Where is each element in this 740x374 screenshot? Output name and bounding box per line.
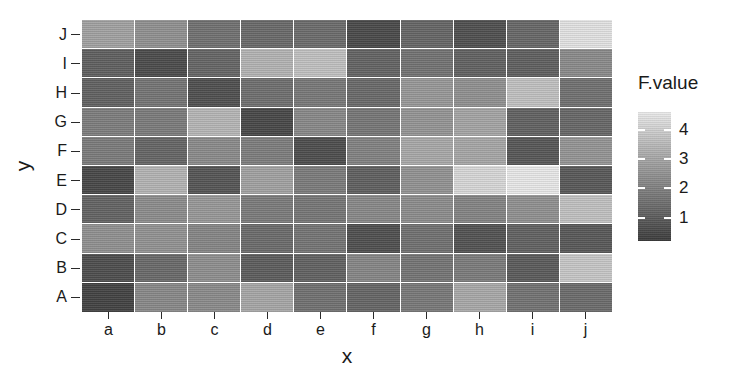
heatmap-cell-iA	[507, 283, 560, 312]
legend-colorbar	[638, 112, 671, 241]
legend-gradient	[638, 112, 671, 241]
heatmap-cell-cJ	[188, 20, 241, 49]
heatmap-cell-eE	[294, 166, 347, 195]
y-tick-mark	[71, 209, 80, 210]
y-tick-label: B	[56, 259, 67, 277]
heatmap-cell-gE	[401, 166, 454, 195]
heatmap-cell-gH	[401, 78, 454, 107]
heatmap-cell-aH	[82, 78, 135, 107]
heatmap-cell-aC	[82, 224, 135, 253]
heatmap-cell-bI	[135, 49, 188, 78]
heatmap-cell-bF	[135, 137, 188, 166]
heatmap-cell-hH	[454, 78, 507, 107]
y-tick-label: J	[59, 26, 67, 44]
heatmap-cell-bB	[135, 254, 188, 283]
heatmap-cell-fB	[347, 254, 400, 283]
x-tick-mark	[214, 312, 215, 319]
x-tick-d: d	[241, 312, 294, 342]
heatmap-cell-iI	[507, 49, 560, 78]
y-tick-mark	[71, 297, 80, 298]
heatmap-cell-dI	[241, 49, 294, 78]
heatmap-cell-dC	[241, 224, 294, 253]
heatmap-cell-dG	[241, 108, 294, 137]
heatmap-cell-jC	[560, 224, 612, 253]
y-tick-C: C	[40, 224, 82, 253]
y-tick-label: H	[55, 84, 67, 102]
heatmap-cell-aA	[82, 283, 135, 312]
heatmap-cell-eH	[294, 78, 347, 107]
heatmap-cell-cB	[188, 254, 241, 283]
x-tick-mark	[373, 312, 374, 319]
y-tick-label: I	[63, 55, 67, 73]
heatmap-cell-cD	[188, 195, 241, 224]
x-tick-mark	[320, 312, 321, 319]
heatmap-cell-hJ	[454, 20, 507, 49]
heatmap-cell-aF	[82, 137, 135, 166]
heatmap-cell-jF	[560, 137, 612, 166]
heatmap-cell-fF	[347, 137, 400, 166]
x-tick-g: g	[400, 312, 453, 342]
heatmap-cell-iJ	[507, 20, 560, 49]
x-tick-mark	[161, 312, 162, 319]
heatmap-cell-cI	[188, 49, 241, 78]
heatmap-cell-fH	[347, 78, 400, 107]
x-axis-title: x	[82, 344, 612, 368]
x-tick-f: f	[347, 312, 400, 342]
heatmap-cell-jG	[560, 108, 612, 137]
y-tick-label: G	[55, 113, 67, 131]
legend-tick-label-2: 2	[679, 178, 688, 198]
x-tick-i: i	[506, 312, 559, 342]
heatmap-cell-aG	[82, 108, 135, 137]
x-tick-a: a	[82, 312, 135, 342]
heatmap-row	[82, 254, 612, 283]
heatmap-cell-bC	[135, 224, 188, 253]
heatmap-cell-iD	[507, 195, 560, 224]
heatmap-cell-jH	[560, 78, 612, 107]
x-tick-mark	[479, 312, 480, 319]
heatmap-cell-eB	[294, 254, 347, 283]
heatmap-cell-dD	[241, 195, 294, 224]
heatmap-cell-cH	[188, 78, 241, 107]
y-tick-A: A	[40, 283, 82, 312]
heatmap-cell-eI	[294, 49, 347, 78]
x-tick-label: i	[531, 320, 535, 340]
heatmap-cell-bD	[135, 195, 188, 224]
legend-tick-label-1: 1	[679, 208, 688, 228]
heatmap-cell-aI	[82, 49, 135, 78]
heatmap-cell-fA	[347, 283, 400, 312]
heatmap-cell-jD	[560, 195, 612, 224]
y-tick-label: C	[55, 230, 67, 248]
heatmap-cell-eC	[294, 224, 347, 253]
heatmap-cell-fD	[347, 195, 400, 224]
heatmap-cell-hF	[454, 137, 507, 166]
heatmap-cell-dE	[241, 166, 294, 195]
heatmap-cell-fJ	[347, 20, 400, 49]
heatmap-cell-cG	[188, 108, 241, 137]
heatmap-cell-gB	[401, 254, 454, 283]
heatmap-cell-bH	[135, 78, 188, 107]
heatmap-row	[82, 49, 612, 78]
heatmap-cell-iB	[507, 254, 560, 283]
heatmap-cell-iG	[507, 108, 560, 137]
y-tick-G: G	[40, 108, 82, 137]
legend-title: F.value	[638, 72, 698, 94]
x-tick-label: g	[422, 320, 431, 340]
heatmap-row	[82, 195, 612, 224]
heatmap-cell-iE	[507, 166, 560, 195]
heatmap-cell-hE	[454, 166, 507, 195]
y-tick-I: I	[40, 49, 82, 78]
x-tick-label: c	[211, 320, 219, 340]
legend: F.value 4321	[634, 72, 738, 252]
y-tick-mark	[71, 180, 80, 181]
heatmap-cell-gD	[401, 195, 454, 224]
heatmap-cell-bJ	[135, 20, 188, 49]
heatmap-cell-jJ	[560, 20, 612, 49]
heatmap-cell-bE	[135, 166, 188, 195]
heatmap-cell-fI	[347, 49, 400, 78]
heatmap-row	[82, 108, 612, 137]
y-tick-mark	[71, 151, 80, 152]
heatmap-cell-aB	[82, 254, 135, 283]
heatmap-cell-iF	[507, 137, 560, 166]
heatmap-cell-cF	[188, 137, 241, 166]
heatmap-cell-hG	[454, 108, 507, 137]
